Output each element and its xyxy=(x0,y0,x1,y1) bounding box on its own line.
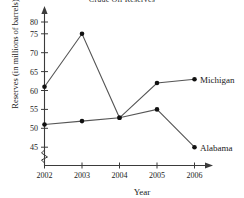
x-tick-label: 2003 xyxy=(74,171,90,180)
alabama-point xyxy=(80,119,85,124)
michigan-point xyxy=(80,32,85,37)
x-tick-label: 2005 xyxy=(149,171,165,180)
series-michigan xyxy=(42,32,197,121)
series-label-michigan: Michigan xyxy=(200,75,235,85)
y-tick-label: 75 xyxy=(30,30,38,39)
x-axis-arrow-icon xyxy=(205,162,213,168)
y-tick-labels: 45 50 55 60 65 70 75 80 xyxy=(30,18,38,152)
y-axis-arrow-icon xyxy=(41,6,47,14)
y-tick-label: 60 xyxy=(30,87,38,96)
michigan-line xyxy=(45,34,195,118)
x-tick-label: 2004 xyxy=(112,171,128,180)
michigan-point xyxy=(192,77,197,82)
alabama-point xyxy=(42,122,47,127)
x-tick-label: 2006 xyxy=(187,171,203,180)
y-tick-label: 65 xyxy=(30,68,38,77)
chart-container: Crude Oil Reserves Reserves (in millions… xyxy=(0,0,244,198)
y-tick-label: 80 xyxy=(30,18,38,27)
x-tick-labels: 2002 2003 2004 2005 2006 xyxy=(37,171,203,180)
series-alabama xyxy=(42,107,197,149)
y-tick-label: 50 xyxy=(30,124,38,133)
x-axis-title: Year xyxy=(40,187,244,197)
y-tick-label: 45 xyxy=(30,143,38,152)
y-tick-label: 70 xyxy=(30,49,38,58)
alabama-point xyxy=(192,145,197,150)
plot-area: 45 50 55 60 65 70 75 80 2002 2003 2004 2… xyxy=(0,0,244,198)
x-axis xyxy=(45,162,214,168)
alabama-line xyxy=(45,109,195,147)
series-label-alabama: Alabama xyxy=(200,143,232,153)
x-tick-label: 2002 xyxy=(37,171,53,180)
alabama-point xyxy=(117,116,122,121)
michigan-point xyxy=(155,81,160,86)
y-tick-label: 55 xyxy=(30,105,38,114)
alabama-point xyxy=(155,107,160,112)
michigan-point xyxy=(42,84,47,89)
